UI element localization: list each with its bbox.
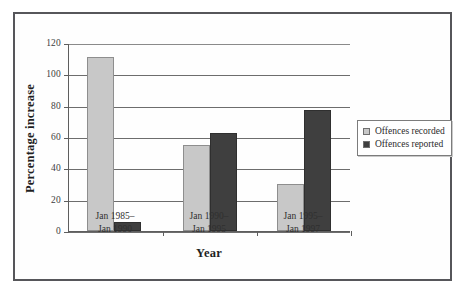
- gridline: [69, 44, 350, 45]
- x-axis-category-label-line: Jan 1997: [284, 223, 323, 236]
- x-axis-category-label: Jan 1985–Jan 1990: [96, 210, 135, 236]
- y-axis-tick: [64, 232, 69, 233]
- y-axis-tick-label: 20: [51, 196, 61, 206]
- y-axis-tick: [64, 107, 69, 108]
- y-axis-tick: [64, 138, 69, 139]
- chart-legend: Offences recordedOffences reported: [357, 120, 452, 156]
- x-axis-tick: [257, 231, 258, 236]
- y-axis-tick: [64, 169, 69, 170]
- bar-offences-recorded: [87, 57, 114, 231]
- y-axis-title: Percentage increase: [23, 44, 39, 232]
- y-axis-tick-label: 0: [56, 227, 61, 237]
- y-axis-tick: [64, 201, 69, 202]
- x-axis-category-label-line: Jan 1990–: [190, 210, 229, 223]
- legend-item: Offences recorded: [363, 125, 445, 138]
- x-axis-title: Year: [68, 246, 350, 261]
- y-axis-tick-label: 120: [46, 39, 61, 49]
- plot-area: 020406080100120: [68, 44, 350, 232]
- y-axis-tick-label: 100: [46, 71, 61, 81]
- legend-item-label: Offences recorded: [375, 125, 445, 138]
- y-axis-tick: [64, 75, 69, 76]
- legend-swatch-icon: [363, 141, 370, 148]
- x-axis-tick: [351, 231, 352, 236]
- legend-swatch-icon: [363, 128, 370, 135]
- y-axis-tick-label: 80: [51, 102, 61, 112]
- x-axis-category-label-line: Jan 1995–: [284, 210, 323, 223]
- x-axis-category-label: Jan 1990–Jan 1995: [190, 210, 229, 236]
- legend-item: Offences reported: [363, 138, 445, 151]
- x-axis-category-label: Jan 1995–Jan 1997: [284, 210, 323, 236]
- x-axis-category-label-line: Jan 1985–: [96, 210, 135, 223]
- y-axis-tick: [64, 44, 69, 45]
- y-axis-tick-label: 60: [51, 133, 61, 143]
- figure-frame: Percentage increase 020406080100120 Jan …: [13, 12, 452, 281]
- x-axis-category-label-line: Jan 1990: [96, 223, 135, 236]
- x-axis-tick: [163, 231, 164, 236]
- y-axis-title-label: Percentage increase: [24, 83, 39, 192]
- legend-item-label: Offences reported: [375, 138, 443, 151]
- y-axis-tick-label: 40: [51, 165, 61, 175]
- x-axis-category-label-line: Jan 1995: [190, 223, 229, 236]
